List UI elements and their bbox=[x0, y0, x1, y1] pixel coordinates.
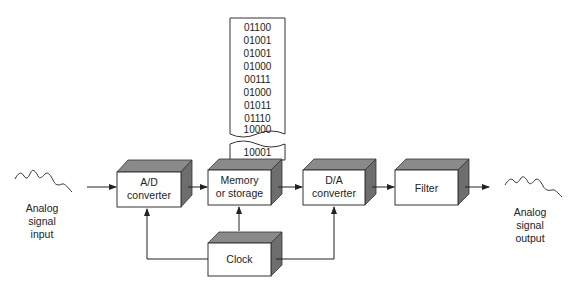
tape-word: 00111 bbox=[244, 74, 271, 85]
output-label-line: signal bbox=[516, 219, 543, 231]
input-label-line: signal bbox=[28, 215, 55, 227]
memory-block: Memory or storage bbox=[208, 159, 282, 205]
block-label: Memory bbox=[221, 174, 260, 186]
tape-word: 01000 bbox=[244, 61, 272, 72]
clock-to-ad-line bbox=[147, 209, 208, 259]
input-label-line: Analog bbox=[26, 202, 59, 214]
clock-block: Clock bbox=[208, 232, 282, 276]
analog-output-wave-icon bbox=[505, 177, 562, 197]
block-label: Filter bbox=[415, 182, 439, 194]
tape-word: 01001 bbox=[244, 48, 272, 59]
tape-word: 01011 bbox=[244, 100, 272, 111]
block-label: D/A bbox=[325, 174, 343, 186]
da-converter-block: D/A converter bbox=[303, 159, 376, 205]
output-label-line: output bbox=[515, 232, 544, 244]
analog-input-wave-icon bbox=[15, 170, 72, 192]
block-label: or storage bbox=[216, 187, 263, 199]
clock-to-da-line bbox=[276, 207, 334, 259]
block-label: converter bbox=[312, 187, 356, 199]
tape-word: 01000 bbox=[244, 87, 272, 98]
input-label-line: input bbox=[31, 228, 54, 240]
block-label: converter bbox=[127, 189, 171, 201]
block-label: Clock bbox=[226, 253, 253, 265]
block-label: A/D bbox=[140, 176, 158, 188]
tape-word: 01110 bbox=[244, 113, 271, 124]
tape-word: 01001 bbox=[244, 35, 272, 46]
current-word: 10001 bbox=[244, 147, 272, 158]
ad-converter-block: A/D converter bbox=[117, 160, 192, 207]
tape-word: 01100 bbox=[244, 22, 272, 33]
memory-tape: 01100 01001 01001 01000 00111 01000 0101… bbox=[230, 18, 285, 160]
signal-processing-diagram: 01100 01001 01001 01000 00111 01000 0101… bbox=[0, 0, 577, 291]
tape-word: 10000 bbox=[244, 124, 272, 135]
output-label-line: Analog bbox=[514, 206, 547, 218]
filter-block: Filter bbox=[395, 159, 469, 205]
